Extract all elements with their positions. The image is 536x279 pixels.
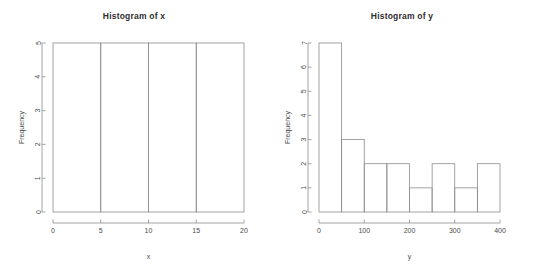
y-axis-tick-label: 2 [35,142,42,146]
plot-title-y: Histogram of y [268,11,536,21]
histogram-bar [149,43,197,212]
x-axis-tick-label: 0 [317,227,321,234]
y-axis-tick-label: 0 [35,210,42,214]
x-axis-tick-label: 200 [404,227,416,234]
y-axis-tick-label: 4 [301,113,308,117]
histogram-bar [432,164,455,212]
x-axis-tick-label: 300 [449,227,461,234]
x-axis-tick-label: 400 [494,227,506,234]
panel-histogram-y: Histogram of y 010020030040001234567yFre… [268,0,536,279]
histogram-bar [53,43,101,212]
y-axis-tick-label: 1 [301,186,308,190]
y-axis-tick-label: 7 [301,41,308,45]
y-axis-title: Frequency [18,110,26,144]
plot-title-x: Histogram of x [0,11,268,21]
y-axis-title: Frequency [284,110,292,144]
y-axis-tick-label: 5 [301,89,308,93]
histogram-bar [342,140,365,212]
x-axis-tick-label: 10 [145,227,153,234]
histogram-bar [387,164,410,212]
histogram-bar [319,43,342,212]
y-axis-tick-label: 0 [301,210,308,214]
x-axis-tick-label: 0 [51,227,55,234]
x-axis-tick-label: 5 [99,227,103,234]
histogram-bar [477,164,500,212]
panel-histogram-x: Histogram of x 05101520012345xFrequency [0,0,268,279]
y-axis-tick-label: 1 [35,176,42,180]
y-axis-tick-label: 3 [35,109,42,113]
histogram-bar [196,43,244,212]
x-axis-title: y [408,253,412,261]
histogram-bar [455,188,478,212]
histogram-bar [410,188,433,212]
y-axis-tick-label: 2 [301,162,308,166]
x-axis-tick-label: 20 [240,227,248,234]
histogram-bar [101,43,149,212]
x-axis-title: x [147,253,151,260]
histogram-bar [364,164,387,212]
y-axis-tick-label: 3 [301,138,308,142]
y-axis-tick-label: 4 [35,75,42,79]
y-axis-tick-label: 6 [301,65,308,69]
x-axis-tick-label: 15 [192,227,200,234]
x-axis-tick-label: 100 [358,227,370,234]
y-axis-tick-label: 5 [35,41,42,45]
plot-canvas-x: 05101520012345xFrequency [0,0,268,279]
histogram-figure: Histogram of x 05101520012345xFrequency … [0,0,536,279]
plot-canvas-y: 010020030040001234567yFrequency [268,0,536,279]
